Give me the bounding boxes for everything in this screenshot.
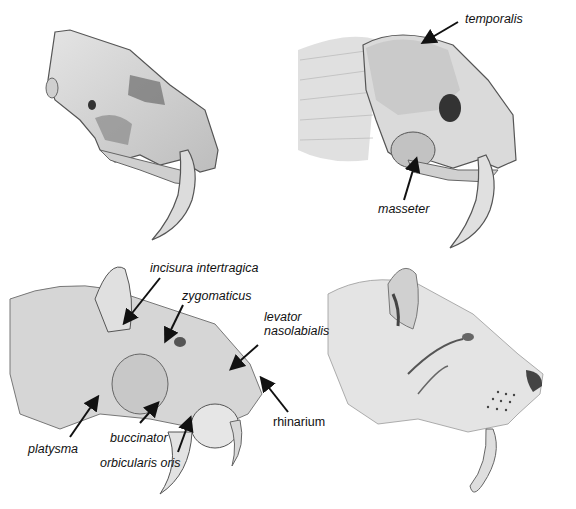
skull-illustration bbox=[0, 0, 288, 254]
panel-skull-muscles bbox=[288, 0, 576, 254]
label-orbicularis-oris: orbicularis oris bbox=[100, 457, 181, 470]
label-incisura-intertragica: incisura intertragica bbox=[150, 262, 258, 275]
label-zygomaticus: zygomaticus bbox=[182, 290, 251, 303]
head-illustration bbox=[288, 254, 576, 509]
panel-skull bbox=[0, 0, 288, 254]
label-masseter: masseter bbox=[378, 203, 429, 216]
label-temporalis: temporalis bbox=[465, 13, 523, 26]
label-platysma: platysma bbox=[28, 443, 78, 456]
label-buccinator: buccinator bbox=[110, 432, 168, 445]
skull-muscles-illustration bbox=[288, 0, 576, 254]
panel-head bbox=[288, 254, 576, 509]
label-rhinarium: rhinarium bbox=[273, 416, 325, 429]
label-levator: levator bbox=[264, 311, 302, 324]
label-nasolabialis: nasolabialis bbox=[264, 325, 329, 338]
